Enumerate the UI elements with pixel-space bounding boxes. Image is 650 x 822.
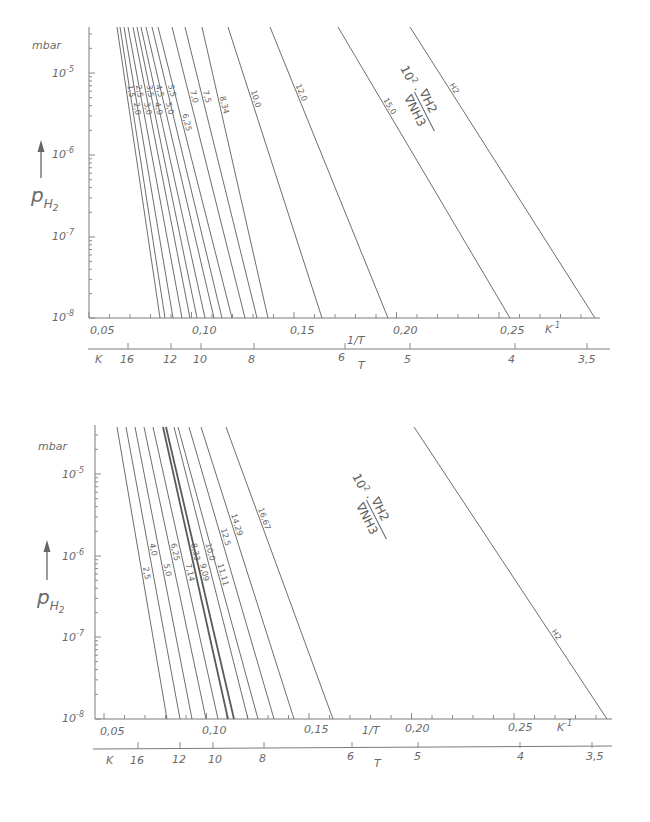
figure: 1,52,02,53,03,54,04,55,05,56,257,07,58,3… bbox=[0, 0, 650, 822]
svg-text:10-7: 10-7 bbox=[52, 228, 75, 243]
x-tick-label: 0,10 bbox=[192, 324, 217, 337]
x-unit-label: K-1 bbox=[557, 719, 572, 734]
y-axis-label: pH2 bbox=[36, 585, 65, 615]
y-tick-label-1e-5: 10-5 bbox=[62, 466, 84, 481]
parameter-label: 102 · ∇H2 ∇NH3 bbox=[340, 468, 399, 546]
x-tick-label: 0,15 bbox=[304, 723, 329, 736]
x-tick-label: 0,25 bbox=[508, 721, 533, 734]
t-tick-label: 10 bbox=[208, 753, 222, 766]
series-line bbox=[124, 27, 173, 318]
t-tick-label: 5 bbox=[404, 353, 411, 366]
y-unit-label: mbar bbox=[38, 440, 68, 453]
svg-text:10-6: 10-6 bbox=[52, 146, 74, 161]
svg-text:10-8: 10-8 bbox=[62, 710, 84, 725]
series-label: 16,67 bbox=[256, 506, 272, 531]
series-label: 5,0 bbox=[164, 101, 176, 115]
t-tick-label: 3,5 bbox=[578, 353, 596, 366]
svg-text:10-6: 10-6 bbox=[62, 548, 84, 563]
svg-text:10-7: 10-7 bbox=[62, 629, 85, 644]
series-label: 6,25 bbox=[180, 113, 193, 132]
x-tick-label: 0,10 bbox=[202, 724, 227, 737]
y-ticks bbox=[89, 34, 95, 318]
t-tick-label: 8 bbox=[248, 353, 255, 366]
y-tick-label-1e-6: 10-6 bbox=[62, 548, 84, 563]
t-unit-label: K bbox=[106, 754, 114, 767]
t-tick-label: 3,5 bbox=[586, 750, 604, 763]
t-axis-title: T bbox=[358, 359, 366, 372]
y-tick-label-1e-7: 10-7 bbox=[52, 228, 75, 243]
up-arrow-icon bbox=[38, 140, 45, 178]
series-line bbox=[117, 27, 160, 318]
t-axis-title: T bbox=[374, 757, 382, 770]
series-line bbox=[146, 27, 214, 318]
y-ticks bbox=[95, 435, 101, 719]
series-label: 15,0 bbox=[381, 96, 398, 116]
t-tick-label: 4 bbox=[508, 353, 515, 366]
t-tick-label: 6 bbox=[347, 750, 354, 763]
y-unit-label: mbar bbox=[32, 39, 62, 52]
t-tick-label: 10 bbox=[193, 353, 207, 366]
chart-bottom: 2,54,05,06,257,148,339,0910,011,1112,514… bbox=[36, 425, 612, 770]
x-tick-label: 0,05 bbox=[90, 324, 115, 337]
x-tick-label: 0,15 bbox=[290, 324, 315, 337]
x-tick-label: 0,20 bbox=[393, 324, 418, 337]
t-tick-label: 5 bbox=[414, 750, 421, 763]
series-line bbox=[120, 27, 165, 318]
up-arrow-icon bbox=[44, 540, 51, 580]
series-label: 12,0 bbox=[294, 83, 309, 103]
x-axis-title: 1/T bbox=[362, 724, 381, 737]
series-line bbox=[128, 27, 182, 318]
x-tick-label: 0,05 bbox=[100, 725, 125, 738]
x-tick-label: 0,25 bbox=[500, 324, 525, 337]
x-tick-label: 0,20 bbox=[405, 722, 430, 735]
x-unit-label: K-1 bbox=[545, 321, 560, 336]
svg-text:10-5: 10-5 bbox=[52, 65, 74, 80]
series-label: 14,29 bbox=[229, 512, 245, 537]
y-tick-label-1e-7: 10-7 bbox=[62, 629, 85, 644]
t-unit-label: K bbox=[95, 353, 103, 366]
y-axis-label: pH2 bbox=[30, 183, 59, 213]
chart-top: 1,52,02,53,03,54,04,55,05,56,257,07,58,3… bbox=[30, 27, 610, 372]
t-tick-label: 4 bbox=[517, 750, 524, 763]
series-line bbox=[410, 27, 595, 318]
t-tick-label: 12 bbox=[163, 353, 177, 366]
t-tick-label: 16 bbox=[120, 353, 134, 366]
series-label: 11,11 bbox=[216, 562, 231, 586]
series-line bbox=[172, 27, 245, 318]
y-tick-label-1e-8: 10-8 bbox=[62, 710, 84, 725]
x-axis-title: 1/T bbox=[347, 334, 366, 347]
series-label: 8,34 bbox=[218, 95, 231, 114]
y-tick-label-1e-8: 10-8 bbox=[52, 309, 74, 324]
svg-text:102 ·: 102 · bbox=[397, 63, 423, 95]
series-line bbox=[201, 427, 294, 719]
svg-text:10-5: 10-5 bbox=[62, 466, 84, 481]
t-tick-label: 6 bbox=[338, 351, 345, 364]
series-line bbox=[226, 427, 333, 719]
t-tick-label: 8 bbox=[259, 752, 266, 765]
y-tick-label-1e-5: 10-5 bbox=[52, 65, 74, 80]
svg-text:102 ·: 102 · bbox=[349, 471, 375, 503]
data-lines: 1,52,02,53,03,54,04,55,05,56,257,07,58,3… bbox=[117, 27, 595, 318]
series-line bbox=[137, 27, 197, 318]
t-tick-label: 16 bbox=[130, 754, 144, 767]
series-line bbox=[133, 27, 190, 318]
t-tick-label: 12 bbox=[172, 753, 186, 766]
svg-text:10-8: 10-8 bbox=[52, 309, 74, 324]
series-label: H2 bbox=[549, 628, 563, 642]
y-tick-label-1e-6: 10-6 bbox=[52, 146, 74, 161]
series-label: 7,0 bbox=[188, 89, 200, 104]
series-label: 7,5 bbox=[201, 89, 213, 104]
series-line bbox=[338, 27, 510, 318]
series-line bbox=[414, 427, 607, 719]
series-label: H2 bbox=[447, 81, 461, 95]
series-line bbox=[228, 27, 322, 318]
series-line bbox=[270, 27, 388, 318]
